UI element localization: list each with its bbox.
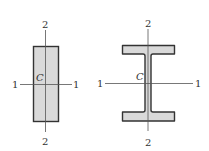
axis-1-left-label: 1 [97,78,103,89]
axis-2-bottom-label: 2 [42,136,48,147]
axis-1-right-label: 1 [73,79,79,90]
i-beam-section: 2 2 1 1 C [97,18,201,148]
rectangular-section: 2 2 1 1 C [12,19,79,147]
axis-2-top-label: 2 [145,18,151,29]
centroid-label: C [136,71,144,82]
axis-1-right-label: 1 [195,78,201,89]
centroid-label: C [36,72,44,83]
axis-2-top-label: 2 [42,19,48,30]
cross-section-diagram: 2 2 1 1 C 2 2 1 1 C [0,0,209,151]
axis-1-left-label: 1 [12,79,18,90]
rectangle-shape [34,47,59,122]
axis-2-bottom-label: 2 [145,137,151,148]
